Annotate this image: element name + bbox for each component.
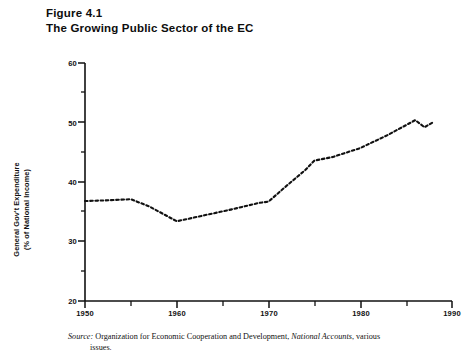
figure-title: The Growing Public Sector of the EC [46,21,446,36]
y-axis-major-ticks [78,63,85,301]
figure-number: Figure 4.1 [46,6,446,21]
source-label: Source: [68,332,93,341]
data-series-line [85,120,434,221]
figure-page: Figure 4.1 The Growing Public Sector of … [0,0,467,363]
figure-title-block: Figure 4.1 The Growing Public Sector of … [46,6,446,36]
source-publication: National Accounts [291,332,352,341]
plot-svg [0,50,467,320]
x-axis-major-ticks [85,301,452,308]
chart-area: General Gov't Expenditure (% of National… [0,50,467,320]
source-note: Source: Organization for Economic Cooper… [68,332,458,353]
source-text-2: , various [352,332,380,341]
source-second-line: issues. [68,343,458,354]
source-text-1: Organization for Economic Cooperation an… [93,332,291,341]
